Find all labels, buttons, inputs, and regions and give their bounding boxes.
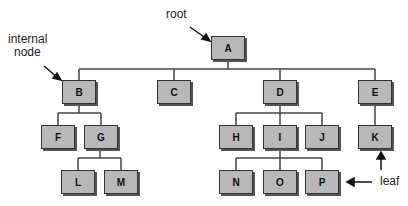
node-n: N xyxy=(219,170,253,194)
node-m: M xyxy=(104,170,138,194)
node-d: D xyxy=(263,80,297,104)
node-b: B xyxy=(62,80,96,104)
node-c: C xyxy=(157,80,191,104)
leaf-label: leaf xyxy=(380,175,399,188)
internal-node-label-line2: node xyxy=(14,46,41,59)
node-k: K xyxy=(358,125,392,149)
node-j: J xyxy=(305,125,339,149)
node-h: H xyxy=(219,125,253,149)
node-o: O xyxy=(263,170,297,194)
root-label: root xyxy=(166,8,187,21)
node-e: E xyxy=(358,80,392,104)
node-p: P xyxy=(305,170,339,194)
node-i: I xyxy=(263,125,297,149)
node-a: A xyxy=(211,36,245,60)
node-l: L xyxy=(61,170,95,194)
node-g: G xyxy=(84,125,118,149)
node-f: F xyxy=(41,125,75,149)
